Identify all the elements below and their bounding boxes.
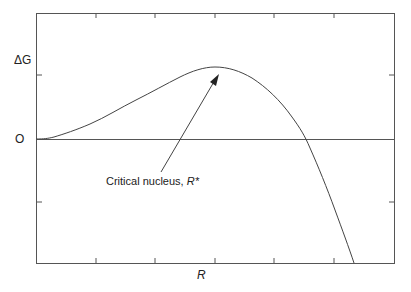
x-axis-label: R: [197, 268, 206, 282]
delta-g-curve: [36, 67, 354, 263]
annotation-label: Critical nucleus, R*: [106, 175, 199, 187]
zero-label: O: [15, 132, 24, 146]
chart-canvas: [0, 0, 411, 292]
annotation-text: Critical nucleus,: [106, 175, 187, 187]
annotation-symbol: R*: [187, 175, 199, 187]
annotation-arrow-line: [161, 80, 215, 172]
x-ticks-bottom: [96, 258, 334, 263]
y-ticks-right: [389, 75, 394, 202]
y-axis-label: ΔG: [14, 53, 31, 67]
y-axis-label-text: ΔG: [14, 53, 31, 67]
arrowhead-icon: [210, 74, 219, 86]
